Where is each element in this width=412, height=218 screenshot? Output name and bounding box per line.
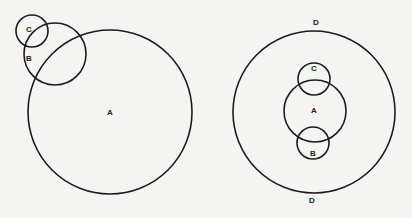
left-label-a: A [107, 108, 113, 117]
left-label-b: B [26, 54, 32, 63]
left-circle-c [16, 15, 48, 47]
venn-diagrams: C B A D C A B D [0, 0, 412, 218]
left-circle-b [24, 23, 86, 85]
right-label-c: C [311, 64, 317, 73]
right-label-b: B [310, 149, 316, 158]
right-label-d-top: D [313, 18, 319, 27]
right-label-d-bottom: D [309, 196, 315, 205]
right-diagram: D C A B D [233, 18, 395, 205]
left-label-c: C [26, 25, 32, 34]
left-diagram: C B A [16, 15, 192, 194]
right-label-a: A [311, 106, 317, 115]
